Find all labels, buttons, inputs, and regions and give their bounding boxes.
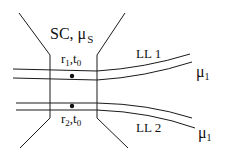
sc-right-boundary: [97, 13, 128, 148]
point-1-dot: [70, 74, 74, 78]
superconductor-label: SC, μS: [50, 25, 93, 45]
lead-1-potential: μ1: [196, 63, 210, 82]
point-2-label: r2,t0: [61, 111, 82, 128]
point-1-label: r1,t0: [61, 51, 82, 68]
lead-2: [16, 103, 195, 128]
point-2-dot: [70, 104, 74, 108]
sc-left-boundary: [19, 13, 50, 148]
lead-1-upper-edge: [13, 54, 190, 71]
lead-2-potential: μ1: [198, 124, 212, 143]
lead-2-label: LL 2: [136, 120, 161, 135]
lead-1-label: LL 1: [136, 46, 161, 61]
diagram-canvas: SC, μS r1,t0 r2,t0 LL 1 μ1 LL 2 μ1: [0, 0, 225, 158]
lead-1: [13, 54, 192, 80]
